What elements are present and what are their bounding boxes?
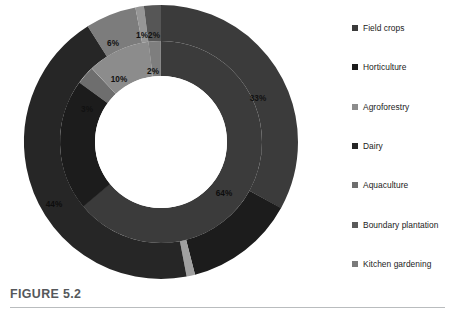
data-label-inner-10: 10% — [111, 75, 128, 84]
legend-item-field-crops[interactable]: Field crops — [352, 22, 452, 34]
legend-label: Agroforestry — [363, 102, 409, 112]
legend-swatch-icon — [352, 222, 358, 228]
legend-swatch-icon — [352, 64, 358, 70]
legend-label: Kitchen gardening — [363, 259, 431, 269]
legend-swatch-icon — [352, 182, 358, 188]
legend-item-horticulture[interactable]: Horticulture — [352, 61, 452, 73]
data-label-inner-2: 2% — [147, 67, 160, 76]
figure-caption: FIGURE 5.2 — [10, 286, 81, 301]
legend-label: Boundary plantation — [363, 220, 438, 230]
doughnut-hole — [95, 76, 227, 208]
caption-block: FIGURE 5.2 — [0, 286, 453, 314]
figure-area: 33% 64% 44% 3% 10% 2% 6% 1% 2% Field cro… — [0, 0, 453, 286]
legend-item-kitchen-gardening[interactable]: Kitchen gardening — [352, 258, 452, 270]
legend-item-agroforestry[interactable]: Agroforestry — [352, 101, 452, 113]
legend-label: Aquaculture — [363, 180, 408, 190]
data-label-outer-2: 2% — [148, 31, 161, 40]
caption-divider — [10, 307, 445, 308]
legend-label: Horticulture — [363, 62, 406, 72]
legend-item-boundary-plantation[interactable]: Boundary plantation — [352, 219, 452, 231]
data-label-outer-1: 1% — [136, 31, 149, 40]
legend-swatch-icon — [352, 143, 358, 149]
legend-item-dairy[interactable]: Dairy — [352, 140, 452, 152]
data-label-outer-33: 33% — [250, 94, 267, 103]
doughnut-chart-svg: 33% 64% 44% 3% 10% 2% 6% 1% 2% — [6, 2, 316, 284]
data-label-outer-44: 44% — [46, 200, 63, 209]
data-label-inner-3: 3% — [81, 105, 94, 114]
legend-swatch-icon — [352, 104, 358, 110]
legend-label: Field crops — [363, 23, 405, 33]
legend-item-aquaculture[interactable]: Aquaculture — [352, 179, 452, 191]
data-label-inner-64: 64% — [216, 189, 233, 198]
legend-label: Dairy — [363, 141, 383, 151]
data-label-outer-6: 6% — [107, 39, 120, 48]
legend-swatch-icon — [352, 25, 358, 31]
legend-swatch-icon — [352, 261, 358, 267]
doughnut-chart: 33% 64% 44% 3% 10% 2% 6% 1% 2% — [6, 2, 316, 284]
chart-legend: Field crops Horticulture Agroforestry Da… — [352, 22, 452, 270]
